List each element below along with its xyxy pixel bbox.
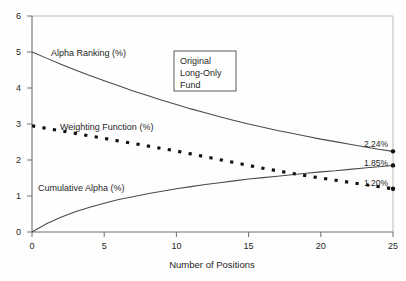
x-tick-label-15: 15 [244,241,254,251]
x-axis-ticks [32,232,393,237]
endpoint-label-cumulative-alpha: 1.85% [364,158,389,168]
callout-original-long-only-fund: Original Long-Only Fund [174,51,236,91]
curve-weighting-function [32,126,393,189]
chart-canvas: 0 1 2 3 4 5 6 0 5 10 15 20 25 Number of … [0,0,406,281]
curve-cumulative-alpha [32,165,393,232]
y-tick-label-6: 6 [16,11,21,21]
endpoint-label-alpha-ranking: 2.24% [364,139,389,149]
x-tick-label-20: 20 [316,241,326,251]
series-label-alpha-ranking: Alpha Ranking (%) [51,48,126,58]
x-tick-label-0: 0 [29,241,34,251]
series-label-cumulative-alpha: Cumulative Alpha (%) [38,183,125,193]
chart-figure: 0 1 2 3 4 5 6 0 5 10 15 20 25 Number of … [0,0,406,281]
callout-line-2: Long-Only [180,68,222,78]
y-tick-label-5: 5 [16,47,21,57]
endpoint-label-weighting-function: 1.20% [364,178,389,188]
y-tick-label-0: 0 [16,227,21,237]
y-tick-label-2: 2 [16,155,21,165]
x-axis-title: Number of Positions [169,259,255,270]
callout-line-1: Original [180,56,211,66]
endpoint-dot [391,187,395,191]
y-tick-label-4: 4 [16,83,21,93]
x-tick-label-5: 5 [102,241,107,251]
series-label-weighting-function: Weighting Function (%) [60,122,153,132]
y-axis-tick-labels: 0 1 2 3 4 5 6 [16,11,21,237]
y-tick-label-3: 3 [16,119,21,129]
callout-line-3: Fund [180,80,201,90]
y-tick-label-1: 1 [16,191,21,201]
x-tick-label-25: 25 [388,241,398,251]
x-tick-label-10: 10 [171,241,181,251]
endpoint-dot [391,149,395,153]
y-axis-ticks [27,16,32,232]
x-axis-tick-labels: 0 5 10 15 20 25 [29,241,398,251]
endpoint-dot [391,163,395,167]
